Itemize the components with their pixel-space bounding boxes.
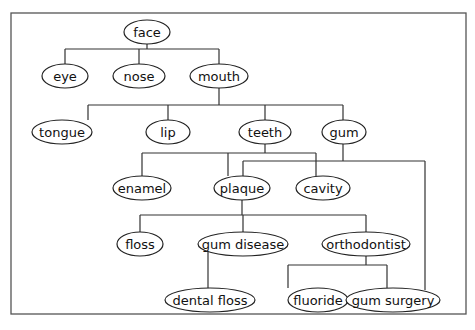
- node-nose: nose: [113, 64, 165, 88]
- node-label: enamel: [118, 181, 166, 196]
- node-label: orthodontist: [326, 237, 406, 252]
- edge-plaque-children: [140, 200, 366, 232]
- node-label: fluoride: [293, 293, 343, 308]
- node-label: lip: [160, 125, 175, 140]
- node-cavity: cavity: [296, 176, 350, 200]
- node-label: floss: [125, 237, 155, 252]
- edge-orthodontist-children: [288, 256, 387, 288]
- node-eye: eye: [42, 64, 88, 88]
- node-label: gum surgery: [352, 293, 435, 308]
- edge-face-children: [65, 44, 219, 64]
- node-label: cavity: [303, 181, 343, 196]
- node-label: dental floss: [173, 293, 248, 308]
- node-gum: gum: [322, 120, 366, 144]
- node-plaque: plaque: [214, 176, 270, 200]
- node-fluoride: fluoride: [288, 288, 348, 312]
- node-label: tongue: [39, 125, 85, 140]
- edge-gum-links: [243, 144, 425, 290]
- nodes-layer: faceeyenosemouthtonguelipteethgumenamelp…: [32, 20, 440, 312]
- node-mouth: mouth: [190, 64, 248, 88]
- node-face: face: [124, 20, 170, 44]
- node-enamel: enamel: [113, 176, 171, 200]
- node-label: gum: [329, 125, 358, 140]
- concept-tree-diagram: faceeyenosemouthtonguelipteethgumenamelp…: [0, 0, 475, 330]
- node-label: mouth: [198, 69, 240, 84]
- node-tongue: tongue: [32, 120, 92, 144]
- node-orthodontist: orthodontist: [322, 232, 410, 256]
- node-lip: lip: [146, 120, 190, 144]
- node-label: nose: [124, 69, 155, 84]
- node-label: teeth: [248, 125, 282, 140]
- edge-mouth-children: [88, 88, 343, 120]
- node-label: face: [133, 25, 161, 40]
- node-label: eye: [53, 69, 77, 84]
- node-label: gum disease: [202, 237, 285, 252]
- node-dental-floss: dental floss: [165, 288, 255, 312]
- node-teeth: teeth: [239, 120, 291, 144]
- node-floss: floss: [117, 232, 163, 256]
- diagram-frame: [11, 13, 466, 314]
- node-gum-surgery: gum surgery: [346, 288, 440, 312]
- node-gum-disease: gum disease: [198, 232, 288, 256]
- node-label: plaque: [220, 181, 264, 196]
- edge-teeth-children: [142, 144, 316, 176]
